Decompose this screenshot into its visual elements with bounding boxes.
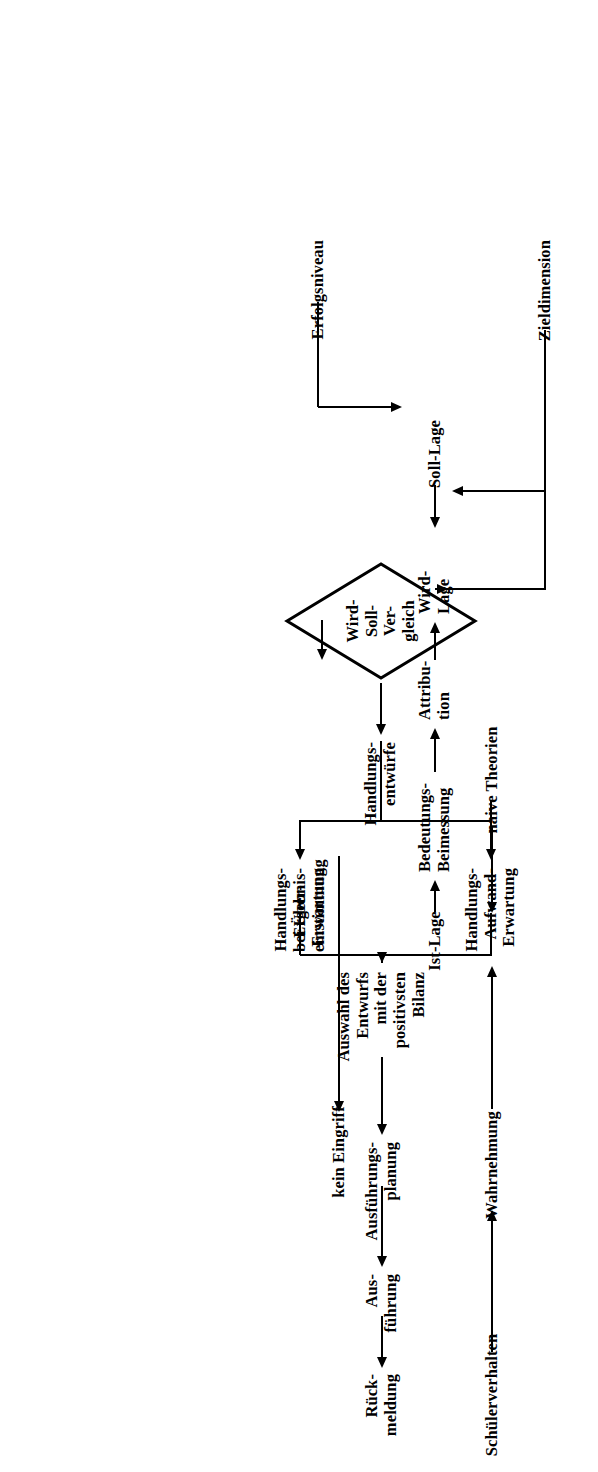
edge-zieldimension-stem — [544, 330, 546, 590]
arrowhead-handlungs-aufwand-erwartung — [486, 849, 496, 860]
edge-ausfuehrungsplanung-ausfuehrung — [381, 1186, 383, 1259]
edge-aufwand-auswahl-run — [490, 913, 492, 955]
decision-label: Wird- Soll- Ver- gleich — [344, 600, 419, 643]
node-bedeutungs-beimessung: Bedeutungs- Beimessung — [416, 783, 453, 872]
arrowhead-wird-lage-vergleich — [317, 649, 327, 660]
node-soll-lage: Soll-Lage — [426, 420, 445, 488]
edge-erfolgsniveau-riser — [318, 406, 400, 408]
decision-wird-soll-vergleich: Wird- Soll- Ver- gleich — [284, 561, 478, 681]
arrowhead-handlungs-ergebnis-erwartung — [295, 849, 305, 860]
edge-ausfuehrung-rueckmeldung — [381, 1316, 383, 1360]
edge-ergebnis-auswahl-run — [299, 913, 301, 955]
node-naive-theorien: naive Theorien — [483, 727, 502, 834]
arrowhead-zieldimension-soll-lage — [452, 486, 463, 496]
edge-soll-lage-vergleich — [434, 485, 436, 519]
edge-vergleich-handlungsentwuerfe — [380, 683, 382, 727]
node-wahrnehmung: Wahrnehmung — [483, 1111, 502, 1218]
arrowhead-vergleich-handlungsentwuerfe — [376, 724, 386, 735]
edge-ergebnis-approach — [299, 820, 301, 852]
node-zieldimension: Zieldimension — [536, 240, 555, 341]
arrowhead-ausfuehrungsplanung-ausfuehrung — [377, 1256, 387, 1267]
arrowhead-ausfuehrung-rueckmeldung — [377, 1357, 387, 1368]
arrowhead-wahrnehmung-ist-lage — [487, 966, 497, 977]
node-auswahl-entwurf: Auswahl des Entwurfs mit der positivsten… — [335, 972, 428, 1062]
edge-handlungsentwuerfe-ergebnis-riser — [300, 820, 382, 822]
edge-wahrnehmung-ist-lage — [491, 969, 493, 1109]
edge-schuelerverhalten-wahrnehmung — [491, 1211, 493, 1352]
edge-zieldimension-branch-riser — [462, 490, 546, 492]
arrowhead-ist-lage-bedeutungs — [430, 880, 440, 891]
arrowhead-soll-lage-vergleich — [430, 517, 440, 528]
edge-handlungsentwuerfe-aufwand-riser — [382, 820, 492, 822]
diagram-page: Schülerverhalten Wahrnehmung naive Theor… — [0, 0, 598, 1472]
edge-erfolgsniveau-stem — [317, 302, 319, 407]
diagram-canvas: Schülerverhalten Wahrnehmung naive Theor… — [0, 0, 598, 1472]
edge-handlungsentwuerfe-ergebnis-run — [380, 741, 382, 821]
arrowhead-erfolgsniveau-soll-lage — [391, 402, 402, 412]
node-ist-lage: Ist-Lage — [426, 911, 445, 970]
edge-ergebnis-auswahl-riser — [300, 954, 382, 956]
edge-handlungsentwuerfe-aufwand-run — [490, 801, 492, 821]
edge-aufwand-auswahl-riser — [382, 954, 492, 956]
arrowhead-bedeutungs-attribution — [430, 728, 440, 739]
edge-aufwand-approach — [490, 820, 492, 852]
node-schuelerverhalten: Schülerverhalten — [483, 1334, 502, 1457]
node-rueckmeldung: Rück- meldung — [363, 1374, 400, 1436]
edge-auswahl-ausfuehrungsplanung — [381, 1057, 383, 1127]
arrowhead-auswahl-ausfuehrungsplanung — [377, 1124, 387, 1135]
node-kein-eingriff: kein Eingriff — [330, 1106, 349, 1198]
edge-wird-lage-vergleich — [321, 620, 323, 652]
